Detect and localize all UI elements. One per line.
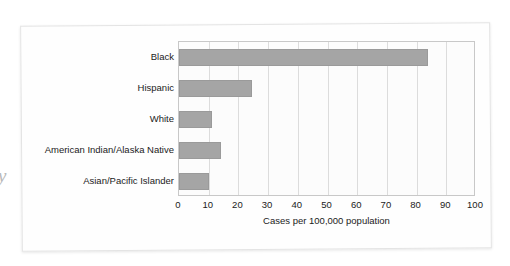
- x-tick-label-20: 20: [232, 200, 243, 210]
- category-label: Black: [0, 52, 174, 62]
- bar-chart: BlackHispanicWhiteAmerican Indian/Alaska…: [0, 0, 510, 266]
- bar-row: [179, 104, 476, 135]
- category-axis-labels: BlackHispanicWhiteAmerican Indian/Alaska…: [0, 41, 174, 196]
- category-label: Hispanic: [0, 83, 174, 93]
- bar-row: [179, 42, 476, 73]
- category-label: Asian/Pacific Islander: [0, 176, 174, 186]
- bar-american-indian-alaska-native: [179, 142, 221, 159]
- bar-row: [179, 166, 476, 197]
- x-tick-label-50: 50: [321, 200, 332, 210]
- x-tick-label-90: 90: [440, 200, 451, 210]
- plot-area: [178, 41, 475, 196]
- x-tick-label-60: 60: [351, 200, 362, 210]
- x-tick-label-10: 10: [202, 200, 213, 210]
- x-tick-label-100: 100: [467, 200, 483, 210]
- x-axis-tick-labels: 0102030405060708090100: [178, 196, 475, 214]
- x-tick-label-30: 30: [262, 200, 273, 210]
- bar-hispanic: [179, 80, 252, 97]
- bar-white: [179, 111, 212, 128]
- x-tick-label-40: 40: [292, 200, 303, 210]
- x-tick-label-0: 0: [175, 200, 180, 210]
- x-axis-title: Cases per 100,000 population: [178, 216, 475, 226]
- x-tick-label-70: 70: [381, 200, 392, 210]
- category-label: American Indian/Alaska Native: [0, 145, 174, 155]
- bar-asian-pacific-islander: [179, 173, 209, 190]
- bar-row: [179, 73, 476, 104]
- bar-row: [179, 135, 476, 166]
- x-tick-label-80: 80: [410, 200, 421, 210]
- category-label: White: [0, 114, 174, 124]
- bar-black: [179, 49, 428, 66]
